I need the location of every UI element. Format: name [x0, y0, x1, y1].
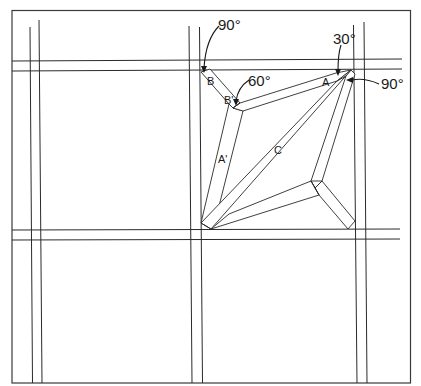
part-label-b: B — [207, 75, 214, 87]
miter-diagram: 90° 60° 30° 90° B B' A A' C — [0, 0, 421, 386]
part-label-b-prime: B' — [224, 94, 233, 106]
part-label-a-prime: A' — [218, 153, 227, 165]
arrow-90-right — [352, 79, 379, 84]
piece-bottom-right — [311, 181, 355, 229]
arrow-30 — [338, 45, 341, 71]
angle-label-30: 30° — [333, 30, 356, 47]
arrow-90-left — [204, 26, 219, 68]
vertical-rails — [30, 20, 367, 383]
part-label-a: A — [322, 76, 330, 88]
angle-label-60: 60° — [248, 72, 271, 89]
diagram-canvas: 90° 60° 30° 90° B B' A A' C — [0, 0, 421, 386]
angle-label-90-right: 90° — [381, 75, 404, 92]
angle-label-90-top-left: 90° — [218, 16, 241, 33]
part-label-c: C — [274, 144, 282, 156]
